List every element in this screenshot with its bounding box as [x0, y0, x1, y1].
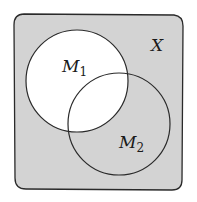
set-m1-circle	[26, 30, 128, 132]
label-x: X	[149, 35, 164, 55]
venn-diagram: X M1 M2	[0, 0, 197, 202]
